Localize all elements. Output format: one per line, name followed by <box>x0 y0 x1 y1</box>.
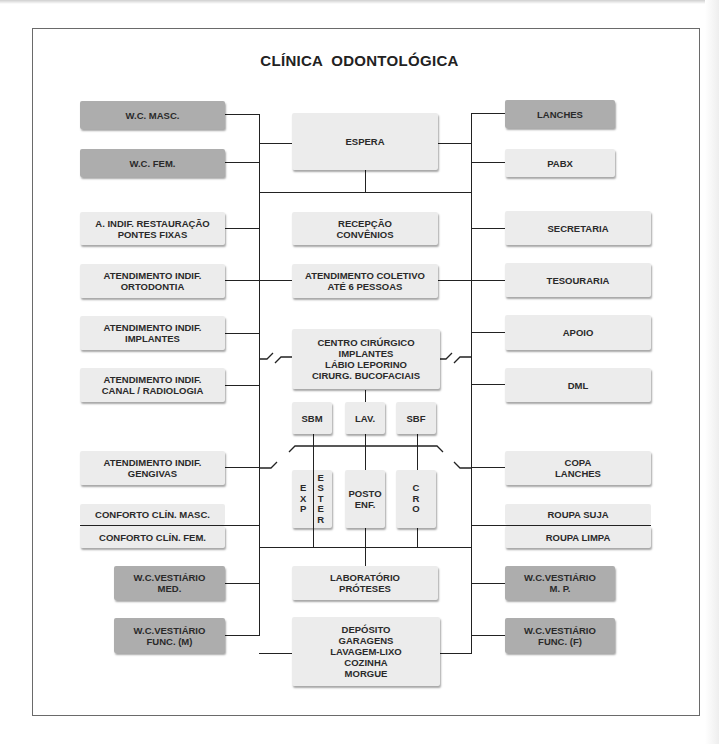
room-secretaria[interactable]: SECRETARIA <box>505 211 651 245</box>
connector-canal <box>225 385 260 386</box>
connector-deposito-right <box>438 653 472 654</box>
room-deposito-servicos[interactable]: DEPÓSITO GARAGENS LAVAGEM-LIXO COZINHA M… <box>292 617 440 686</box>
room-conforto-fem[interactable]: CONFORTO CLÍN. FEM. <box>80 526 225 548</box>
room-sbm[interactable]: SBM <box>292 402 332 434</box>
connector-restauracao <box>225 228 260 229</box>
room-laboratorio-proteses[interactable]: LABORATÓRIO PRÓTESES <box>292 566 438 600</box>
room-copa-lanches[interactable]: COPA LANCHES <box>505 451 651 485</box>
room-wc-vestiario-mp[interactable]: W.C.VESTIÁRIO M. P. <box>505 566 615 600</box>
connector-wc-fem <box>225 162 260 163</box>
room-atend-restauracao[interactable]: A. INDIF. RESTAURAÇÃO PONTES FIXAS <box>80 212 225 245</box>
room-lanches[interactable]: LANCHES <box>505 100 615 128</box>
room-wc-vestiario-func-m[interactable]: W.C.VESTIÁRIO FUNC. (M) <box>114 618 225 653</box>
right-edge-shadow <box>705 0 719 744</box>
crossbar-bottom <box>259 547 472 548</box>
room-wc-fem[interactable]: W.C. FEM. <box>80 149 225 177</box>
room-atend-gengivas[interactable]: ATENDIMENTO INDIF. GENGIVAS <box>80 451 225 485</box>
connector-apoio <box>471 332 505 333</box>
right-trunk-lower <box>471 600 472 654</box>
crossbar-top <box>259 192 472 193</box>
connector-espera-right <box>438 143 472 144</box>
connector-wc-masc <box>225 114 260 115</box>
connector-lanches <box>471 113 505 114</box>
room-pabx[interactable]: PABX <box>505 149 615 177</box>
top-edge-shadow <box>0 0 719 4</box>
roupa-divider-line <box>471 525 651 526</box>
letter: P <box>300 504 306 515</box>
connector-gengivas <box>225 467 260 468</box>
connector-implantes <box>225 333 260 334</box>
room-lav[interactable]: LAV. <box>345 402 385 434</box>
room-roupa-limpa[interactable]: ROUPA LIMPA <box>505 526 651 548</box>
letter: O <box>412 504 419 515</box>
room-conforto-masc[interactable]: CONFORTO CLÍN. MASC. <box>80 504 225 525</box>
centro-right-break-symbol <box>438 345 472 365</box>
room-roupa-suja[interactable]: ROUPA SUJA <box>505 504 651 525</box>
connector-centro-lav <box>365 390 366 402</box>
connector-wc-vest-func-f <box>471 635 505 636</box>
connector-cro-bottom <box>417 528 418 547</box>
room-apoio[interactable]: APOIO <box>505 315 651 350</box>
connector-ortodontia <box>225 280 292 281</box>
room-centro-cirurgico[interactable]: CENTRO CIRÚRGICO IMPLANTES LÁBIO LEPORIN… <box>292 329 440 389</box>
room-atend-ortodontia[interactable]: ATENDIMENTO INDIF. ORTODONTIA <box>80 264 225 298</box>
diagram-title: CLÍNICA ODONTOLÓGICA <box>0 52 719 69</box>
exp-ester-divider-line <box>313 470 314 547</box>
room-atend-canal-radiologia[interactable]: ATENDIMENTO INDIF. CANAL / RADIOLOGIA <box>80 368 225 402</box>
label-ester: E S T E R <box>317 473 324 526</box>
room-espera[interactable]: ESPERA <box>292 113 438 170</box>
room-wc-vestiario-func-f[interactable]: W.C.VESTIÁRIO FUNC. (F) <box>505 618 615 653</box>
connector-espera-down <box>365 170 366 192</box>
letter: R <box>317 515 324 526</box>
connector-deposito <box>259 653 292 654</box>
room-wc-masc[interactable]: W.C. MASC. <box>80 101 225 129</box>
label-exp: E X P <box>300 483 306 515</box>
connector-espera-left <box>259 143 292 144</box>
room-tesouraria[interactable]: TESOURARIA <box>505 263 651 297</box>
room-recepcao-convenios[interactable]: RECEPÇÃO CONVÊNIOS <box>292 212 438 245</box>
centro-left-break-symbol <box>259 345 293 365</box>
conforto-divider-line <box>80 525 260 526</box>
connector-wc-vest-mp <box>471 583 505 584</box>
room-dml[interactable]: DML <box>505 368 651 402</box>
label-cro: C R O <box>412 483 419 515</box>
room-atend-implantes[interactable]: ATENDIMENTO INDIF. IMPLANTES <box>80 316 225 350</box>
room-cro[interactable]: C R O <box>396 470 436 528</box>
connector-tesouraria <box>438 280 505 281</box>
connector-pabx <box>471 162 505 163</box>
room-exp-ester[interactable]: E X P E S T E R <box>292 470 332 528</box>
room-posto-enf[interactable]: POSTO ENF. <box>345 470 385 528</box>
connector-wc-vest-med <box>225 583 260 584</box>
room-wc-vestiario-med[interactable]: W.C.VESTIÁRIO MED. <box>114 566 225 600</box>
connector-copa <box>471 467 505 468</box>
connector-secretaria <box>471 228 505 229</box>
connector-wc-vest-func-m <box>225 635 260 636</box>
room-atend-coletivo[interactable]: ATENDIMENTO COLETIVO ATÉ 6 PESSOAS <box>292 264 438 298</box>
connector-dml <box>471 384 505 385</box>
room-sbf[interactable]: SBF <box>396 402 436 434</box>
